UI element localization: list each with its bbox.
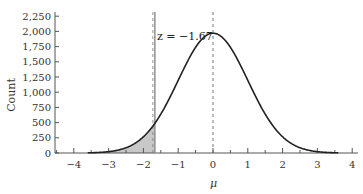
y-tick-label: 0 — [45, 148, 51, 159]
y-tick-label: 2,250 — [22, 11, 51, 22]
x-tick-label: 1 — [245, 159, 251, 170]
x-tick-label: 2 — [279, 159, 285, 170]
y-tick-label: 1,750 — [22, 41, 51, 52]
y-tick-label: 750 — [32, 102, 51, 113]
y-tick-label: 1,500 — [22, 56, 51, 67]
y-tick-label: 2,000 — [22, 26, 51, 37]
y-tick-label: 500 — [32, 117, 51, 128]
x-tick-label: −1 — [171, 159, 186, 170]
y-axis-title: Count — [5, 78, 18, 112]
y-tick-label: 1,000 — [22, 87, 51, 98]
x-axis-title: μ — [210, 177, 217, 190]
y-tick-label: 1,250 — [22, 72, 51, 83]
x-tick-label: −3 — [101, 159, 116, 170]
x-tick-label: 4 — [349, 159, 355, 170]
normal-distribution-chart: 02505007501,0001,2501,5001,7502,0002,250… — [0, 0, 363, 194]
z-annotation: z = −1.67 — [157, 30, 213, 43]
y-tick-label: 250 — [32, 132, 51, 143]
x-tick-label: −2 — [136, 159, 151, 170]
x-tick-label: −4 — [66, 159, 81, 170]
x-tick-label: 3 — [314, 159, 320, 170]
x-tick-label: 0 — [210, 159, 216, 170]
